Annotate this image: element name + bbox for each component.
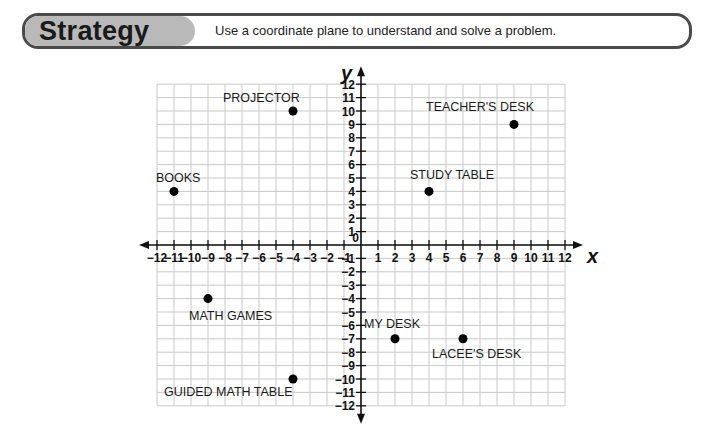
point-marker (510, 120, 519, 129)
y-tick-label: 3 (348, 198, 355, 212)
x-tick-label: 1 (375, 251, 382, 265)
x-tick-label: 9 (511, 251, 518, 265)
y-axis-up-arrow-icon (357, 66, 365, 76)
y-tick-label: −2 (341, 265, 355, 279)
x-tick-label: −9 (201, 251, 215, 265)
y-tick-label: 4 (348, 185, 355, 199)
y-tick-label: 8 (348, 131, 355, 145)
y-tick-label: −10 (335, 373, 356, 387)
y-axis-down-arrow-icon (357, 414, 365, 424)
y-tick-label: −4 (341, 292, 355, 306)
y-tick-label: −1 (341, 252, 355, 266)
x-tick-label: −7 (235, 251, 249, 265)
point-label: TEACHER'S DESK (426, 100, 535, 114)
axes (139, 66, 583, 424)
point-marker (289, 107, 298, 116)
point-label: STUDY TABLE (410, 168, 494, 182)
data-point: PROJECTOR (223, 91, 300, 116)
data-point: BOOKS (156, 171, 200, 196)
point-marker (204, 294, 213, 303)
point-marker (289, 375, 298, 384)
x-tick-label: 2 (392, 251, 399, 265)
point-marker (425, 187, 434, 196)
x-tick-label: −2 (320, 251, 334, 265)
y-tick-label: 10 (342, 105, 356, 119)
y-tick-label: −11 (335, 386, 355, 400)
x-tick-label: 12 (558, 251, 572, 265)
x-tick-label: −4 (286, 251, 300, 265)
y-tick-label: 11 (342, 91, 355, 105)
x-tick-label: 6 (460, 251, 467, 265)
x-tick-label: −10 (181, 251, 202, 265)
x-tick-label: 3 (409, 251, 416, 265)
data-point: LACEE'S DESK (432, 334, 522, 361)
y-tick-label: −5 (341, 306, 355, 320)
y-tick-label: −6 (341, 319, 355, 333)
x-axis-label: x (586, 245, 599, 267)
x-axis-right-arrow-icon (573, 241, 583, 249)
point-label: MY DESK (364, 317, 421, 331)
data-point: GUIDED MATH TABLE (164, 375, 298, 400)
y-tick-label: 5 (348, 172, 355, 186)
y-tick-label: 2 (348, 212, 355, 226)
x-axis-left-arrow-icon (139, 241, 149, 249)
point-marker (391, 334, 400, 343)
y-tick-label: −9 (341, 359, 355, 373)
x-tick-label: −3 (303, 251, 317, 265)
point-marker (459, 334, 468, 343)
point-marker (170, 187, 179, 196)
point-label: LACEE'S DESK (432, 347, 522, 361)
y-tick-label: −3 (341, 279, 355, 293)
x-tick-label: −6 (252, 251, 266, 265)
y-tick-label: 9 (348, 118, 355, 132)
point-label: GUIDED MATH TABLE (164, 385, 293, 399)
x-tick-label: 11 (542, 251, 555, 265)
x-tick-label: 5 (443, 251, 450, 265)
origin-label: 0 (352, 231, 359, 245)
coordinate-plane: −12−11−10−9−8−7−6−5−4−3−2−11234567891011… (0, 0, 722, 438)
x-tick-label: 8 (494, 251, 501, 265)
x-tick-label: −5 (269, 251, 283, 265)
x-tick-label: −8 (218, 251, 232, 265)
x-tick-label: 10 (524, 251, 538, 265)
y-tick-label: −7 (341, 332, 355, 346)
x-tick-label: 7 (477, 251, 484, 265)
x-tick-label: 4 (426, 251, 433, 265)
y-tick-label: −12 (335, 399, 356, 413)
y-tick-label: 6 (348, 158, 355, 172)
point-label: MATH GAMES (189, 309, 272, 323)
y-axis-label: y (340, 62, 353, 84)
point-label: BOOKS (156, 171, 200, 185)
y-tick-label: −8 (341, 346, 355, 360)
y-tick-label: 7 (348, 145, 355, 159)
point-label: PROJECTOR (223, 91, 300, 105)
